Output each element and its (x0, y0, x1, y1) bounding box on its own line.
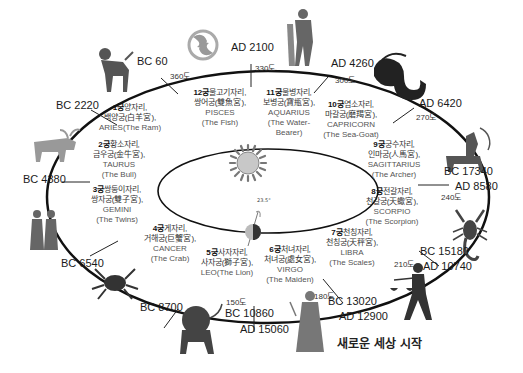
sign-taurus: 2궁황소자리, 금우궁(金牛宮), TAURUS (The Bull) (84, 140, 154, 180)
degree-label: 210도 (394, 258, 414, 269)
era-label: AD 10740 (423, 260, 472, 272)
sign-libra: 7궁천칭자리, 천칭궁(天秤宮), LIBRA (The Scales) (317, 228, 387, 268)
ram-icon (99, 48, 133, 92)
era-label: AD 12900 (339, 310, 388, 322)
lion-icon (180, 304, 222, 354)
gemini-icon (30, 210, 58, 250)
era-label: BC 17340 (444, 165, 493, 177)
era-label: BC 8700 (140, 301, 183, 313)
era-label: AD 2100 (231, 41, 274, 53)
sign-scorpio: 8궁전갈자리, 천갈궁(天蠍宮), SCORPIO (The Scorpion) (352, 187, 432, 227)
axial-tilt-label: 23.5° (257, 197, 271, 203)
sign-virgo: 6궁처녀자리, 처녀궁(處女宮), VIRGO (The Maiden) (255, 245, 325, 285)
era-label: BC 4380 (23, 173, 66, 185)
sign-leo: 5궁사자자리, 사자궁(獅子宮), LEO(The Lion) (191, 248, 263, 278)
era-label: AD 8580 (455, 180, 498, 192)
era-label: BC 60 (137, 55, 168, 67)
pisces-icon (189, 31, 217, 59)
degree-label: 150도 (226, 296, 246, 307)
degree-label: 180도 (314, 290, 334, 301)
era-label: AD 4260 (331, 57, 374, 69)
era-label: BC 13020 (328, 295, 377, 307)
earth-icon (245, 211, 261, 246)
era-label: AD 15060 (240, 323, 289, 335)
orbit-ellipse (158, 149, 378, 233)
crab-icon (92, 269, 138, 299)
era-label: AD 6420 (419, 97, 462, 109)
degree-label: 330도 (255, 62, 275, 73)
sign-gemini: 3궁쌍둥이자리, 쌍자궁(雙子宮), GEMINI (The Twins) (80, 185, 154, 225)
era-label: BC 10860 (225, 307, 274, 319)
sign-capricorn: 10궁염소자리, 마갈궁(磨羯宮), CAPRICORN (The Sea-Go… (313, 100, 389, 140)
degree-label: 360도 (170, 70, 190, 81)
sign-sagittarius: 9궁궁수자리, 인마궁(人馬宮), SAGITTARIUS (The Arche… (356, 140, 432, 180)
sign-pisces: 12궁물고기자리, 쌍어궁(雙魚宮), PISCES (The Fish) (180, 88, 260, 128)
era-label: BC 6540 (61, 257, 104, 269)
degree-label: 270도 (416, 111, 436, 122)
sun-icon (230, 145, 266, 181)
era-label: BC 15180 (420, 245, 469, 257)
degree-label: 300도 (335, 74, 355, 85)
capricorn-icon (374, 54, 426, 100)
caption-new-world: 새로운 세상 시작 (337, 334, 422, 351)
aquarius-icon (287, 9, 313, 66)
sign-aquarius: 11궁물병자리, 보병궁(寶甁宮), AQUARIUS (The Water- … (256, 88, 322, 138)
degree-label: 240도 (441, 191, 461, 202)
sign-aries: 1궁양자리, 백양궁(白羊宮), ARIES(The Ram) (90, 103, 170, 133)
